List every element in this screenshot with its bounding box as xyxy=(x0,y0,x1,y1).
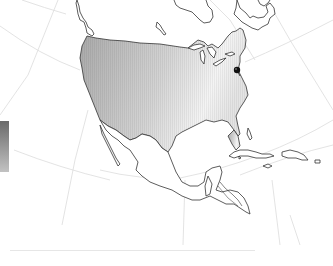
map-canvas xyxy=(0,0,333,266)
legend-color-bar xyxy=(0,121,9,172)
canada-outline xyxy=(76,0,275,36)
footer-caption xyxy=(12,261,252,266)
footer-divider xyxy=(10,250,255,251)
map-figure xyxy=(0,0,333,266)
united-states-region xyxy=(80,28,248,152)
